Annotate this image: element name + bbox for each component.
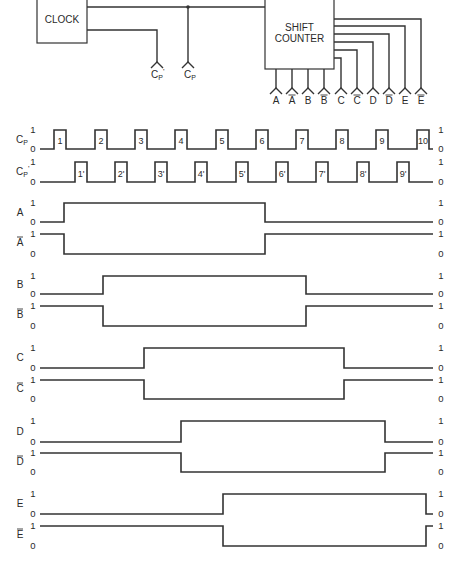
level-0-left: 0 [30, 176, 35, 187]
level-0-right: 0 [438, 320, 443, 331]
output-wire [334, 42, 373, 88]
level-1-left: 1 [30, 374, 35, 385]
level-0-left: 0 [30, 288, 35, 299]
output-label: C [337, 95, 344, 106]
counter-output-c: C [334, 58, 347, 106]
level-1-left: 1 [30, 342, 35, 353]
output-label: E [402, 95, 409, 106]
output-label: A [289, 95, 296, 106]
level-1-right: 1 [438, 156, 443, 167]
pulse-label: 3' [158, 169, 165, 179]
pulse-label: 7' [319, 169, 326, 179]
signal-label: D [16, 456, 23, 467]
pulse-label: 10 [418, 136, 428, 146]
level-0-left: 0 [30, 143, 35, 154]
waveform-cp-prime: 1'2'3'4'5'6'7'8'9'CP'1010 [16, 156, 444, 187]
terminal-arrow-icon [270, 88, 282, 94]
level-0-right: 0 [438, 436, 443, 447]
signal-label: A [17, 207, 24, 218]
level-1-left: 1 [30, 415, 35, 426]
level-1-left: 1 [30, 488, 35, 499]
pulse-trace [40, 162, 433, 182]
pulse-label: 2' [118, 169, 125, 179]
level-0-right: 0 [438, 216, 443, 227]
block-diagram: CLOCKSHIFTCOUNTERCPCP'AABBCCDDEE [37, 0, 427, 106]
waveform-c-bar: C1010 [16, 374, 443, 404]
signal-trace [40, 306, 433, 326]
cp-prime-terminal-arrow-icon [151, 62, 163, 68]
pulse-label: 6 [259, 136, 264, 146]
cp-label: CP [184, 69, 196, 81]
signal-trace [40, 453, 433, 472]
level-0-left: 0 [30, 362, 35, 373]
counter-output-a-bar: A [286, 69, 298, 106]
terminal-arrow-icon [399, 88, 411, 94]
level-1-right: 1 [438, 197, 443, 208]
signal-label: C [16, 383, 23, 394]
waveform-a: A1010 [17, 197, 444, 227]
level-0-right: 0 [438, 288, 443, 299]
signal-label: B [17, 309, 24, 320]
signal-trace [40, 203, 433, 222]
level-0-left: 0 [30, 248, 35, 259]
terminal-arrow-icon [367, 88, 379, 94]
pulse-label: 4 [178, 136, 183, 146]
waveform-c: C1010 [16, 342, 443, 373]
level-1-right: 1 [438, 270, 443, 281]
clock-label: CLOCK [45, 14, 80, 25]
pulse-label: 1 [57, 136, 62, 146]
signal-trace [40, 380, 433, 399]
level-1-left: 1 [30, 300, 35, 311]
pulse-label: 8 [339, 136, 344, 146]
level-0-right: 0 [438, 508, 443, 519]
level-1-right: 1 [438, 228, 443, 239]
pulse-label: 9 [379, 136, 384, 146]
pulse-label: 6' [279, 169, 286, 179]
level-0-left: 0 [30, 320, 35, 331]
pulse-label: 5 [219, 136, 224, 146]
level-0-right: 0 [438, 540, 443, 551]
pulse-label: 2 [98, 136, 103, 146]
level-1-left: 1 [30, 197, 35, 208]
pulse-label: 7 [299, 136, 304, 146]
waveform-b-bar: B1010 [17, 300, 444, 331]
output-label: D [369, 95, 376, 106]
shift-counter-label-line1: SHIFT [285, 22, 314, 33]
waveform-e-bar: E1010 [17, 520, 444, 551]
shift-counter-label-line2: COUNTER [275, 33, 324, 44]
output-label: B [305, 95, 312, 106]
waveform-cp: 12345678910CP1010 [16, 124, 444, 154]
level-0-left: 0 [30, 436, 35, 447]
level-0-left: 0 [30, 393, 35, 404]
level-0-right: 0 [438, 248, 443, 259]
pulse-label: 4' [198, 169, 205, 179]
signal-label: C [16, 352, 23, 363]
pulse-label: 9' [400, 169, 407, 179]
level-1-left: 1 [30, 447, 35, 458]
level-1-left: 1 [30, 520, 35, 531]
output-label: C [353, 95, 360, 106]
level-1-right: 1 [438, 488, 443, 499]
signal-trace [40, 234, 433, 254]
cp-prime-wire [87, 30, 157, 62]
output-label: A [273, 95, 280, 106]
clock-block: CLOCK [37, 0, 87, 43]
level-0-left: 0 [30, 216, 35, 227]
level-1-right: 1 [438, 415, 443, 426]
terminal-arrow-icon [383, 88, 395, 94]
output-label: E [418, 95, 425, 106]
level-1-left: 1 [30, 124, 35, 135]
counter-output-e-bar: E [334, 19, 427, 106]
pulse-label: 8' [360, 169, 367, 179]
pulse-label: 5' [239, 169, 246, 179]
output-label: D [385, 95, 392, 106]
terminal-arrow-icon [318, 88, 330, 94]
waveform-e: E1010 [17, 488, 444, 519]
signal-label: A [17, 237, 24, 248]
signal-label: E [17, 498, 24, 509]
level-0-right: 0 [438, 393, 443, 404]
signal-label: E [17, 529, 24, 540]
shift-counter-block: SHIFTCOUNTER [265, 0, 334, 69]
signal-trace [40, 526, 433, 546]
level-1-right: 1 [438, 374, 443, 385]
